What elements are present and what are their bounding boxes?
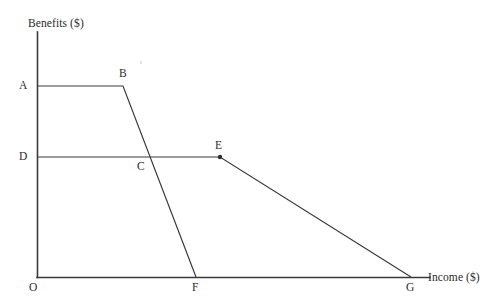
- point-label-e: E: [215, 140, 222, 152]
- benefit-schedule-abf: [38, 86, 197, 277]
- y-axis-title: Benefits ($): [28, 18, 84, 30]
- point-label-b: B: [119, 68, 127, 80]
- point-label-d: D: [19, 151, 27, 163]
- point-label-f: F: [192, 282, 199, 294]
- figure-canvas: [0, 0, 492, 306]
- point-label-a: A: [19, 80, 27, 92]
- benefits-income-figure: Benefits ($) Income ($) O A B C D E F G: [0, 0, 492, 306]
- benefit-schedule-deg: [38, 157, 412, 277]
- origin-label: O: [29, 282, 37, 294]
- point-label-c: C: [137, 161, 145, 173]
- scan-artifact-speck: [140, 61, 142, 64]
- point-marker-e: [218, 155, 222, 159]
- x-axis-title: Income ($): [428, 272, 480, 284]
- point-label-g: G: [406, 282, 414, 294]
